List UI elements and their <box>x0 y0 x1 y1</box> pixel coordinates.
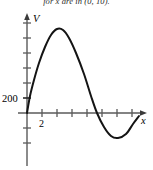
y-axis-group <box>23 13 31 166</box>
x-axis-label: x <box>140 115 146 126</box>
figure-container: for x are in (0, 10). <box>0 0 153 170</box>
y-axis-arrowhead <box>24 13 30 20</box>
graph-plot: V x 200 2 <box>0 0 153 170</box>
x-tick-label-2: 2 <box>39 118 44 129</box>
y-tick-label-200: 200 <box>2 93 18 104</box>
y-axis-label: V <box>33 13 41 24</box>
x-axis-group <box>18 109 147 117</box>
